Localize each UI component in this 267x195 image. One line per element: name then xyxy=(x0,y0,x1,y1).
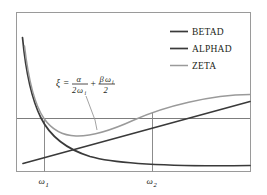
equation-equals-sign: = xyxy=(64,78,69,88)
x-tick-label-omega2: ω xyxy=(147,176,153,186)
equation-term2-numerator-omega: ω xyxy=(105,74,111,84)
legend-label-zeta: ZETA xyxy=(192,61,216,71)
x-axis-tick-labels: ω 1 ω 2 xyxy=(39,176,158,188)
equation-term1-numerator: α xyxy=(77,74,82,84)
equation-term1-denominator-omega: ω xyxy=(77,85,83,95)
legend-label-alphad: ALPHAD xyxy=(192,44,232,54)
chart-canvas: ξ = α 2 ω i + β ω i 2 ω 1 ω 2 xyxy=(0,0,267,195)
x-tick-subscript-omega1: 1 xyxy=(46,181,49,188)
figure-container: ξ = α 2 ω i + β ω i 2 ω 1 ω 2 xyxy=(0,0,267,195)
x-tick-label-omega1: ω xyxy=(39,176,45,186)
equation-term2-numerator-beta: β xyxy=(99,74,105,84)
equation-plus-sign: + xyxy=(91,79,96,89)
x-tick-subscript-omega2: 2 xyxy=(154,181,158,188)
legend-label-betad: BETAD xyxy=(192,27,224,37)
